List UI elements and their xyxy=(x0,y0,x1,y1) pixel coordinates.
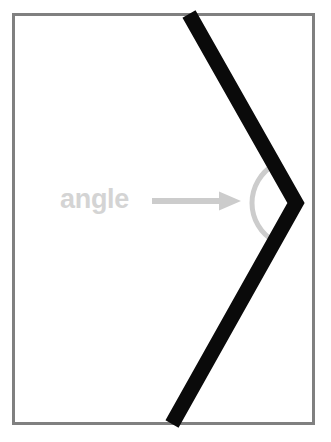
diagram-svg: angle xyxy=(0,0,331,442)
angle-diagram-canvas: angle xyxy=(0,0,331,442)
arrow-shaft xyxy=(152,198,221,204)
angle-label: angle xyxy=(60,184,129,214)
